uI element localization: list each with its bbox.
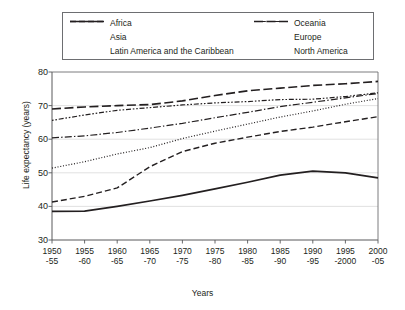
series-line	[52, 94, 378, 138]
x-tick-marks	[52, 240, 378, 244]
series-line	[52, 171, 378, 211]
series-line	[52, 81, 378, 109]
axis-lines	[52, 72, 378, 240]
data-series	[52, 81, 378, 211]
series-line	[52, 99, 378, 169]
series-line	[52, 93, 378, 121]
chart-plot-area	[0, 0, 405, 310]
gridlines	[52, 106, 378, 207]
life-expectancy-chart: AfricaAsiaLatin America and the Caribbea…	[0, 0, 405, 310]
y-tick-marks	[49, 72, 53, 240]
